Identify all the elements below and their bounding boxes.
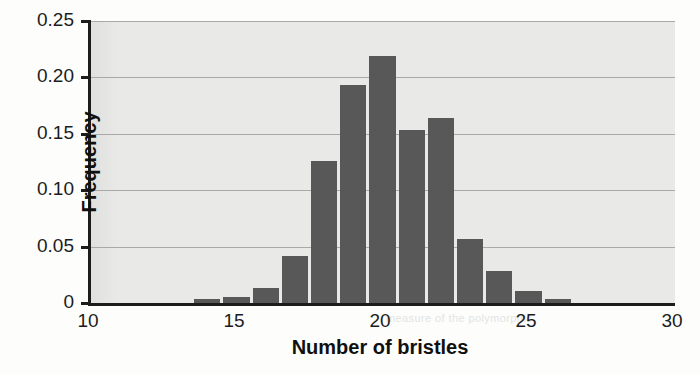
- y-axis-tick: [81, 246, 91, 249]
- y-axis-tick: [81, 20, 91, 23]
- bar: [369, 56, 395, 303]
- y-axis-tick: [81, 302, 91, 305]
- bar: [282, 256, 308, 303]
- bar: [428, 118, 454, 303]
- bar: [486, 271, 512, 303]
- bar: [194, 299, 220, 304]
- y-axis-tick-label: 0.05: [37, 235, 74, 257]
- bar: [545, 299, 571, 304]
- bar: [223, 297, 249, 303]
- x-axis-tick-label: 20: [340, 310, 420, 332]
- bar: [399, 130, 425, 303]
- plot-area: Frequency: [88, 21, 675, 306]
- bar: [311, 161, 337, 303]
- y-axis-tick-label: 0.25: [37, 9, 74, 31]
- y-axis-tick-label: 0.20: [37, 65, 74, 87]
- bar: [253, 288, 279, 303]
- y-axis-tick-label: 0.10: [37, 178, 74, 200]
- bar: [340, 85, 366, 303]
- gridline: [91, 21, 675, 22]
- x-axis-tick-label: 10: [48, 310, 128, 332]
- bar: [515, 291, 541, 303]
- bar: [457, 239, 483, 303]
- histogram-figure: Great comprehension for 2015 understandi…: [0, 0, 700, 375]
- x-axis-tick-label: 30: [632, 310, 700, 332]
- y-axis-tick-label: 0.15: [37, 122, 74, 144]
- x-axis-title: Number of bristles: [88, 336, 672, 359]
- x-axis-tick-label: 25: [486, 310, 566, 332]
- y-axis-tick: [81, 76, 91, 79]
- x-axis-tick-label: 15: [194, 310, 274, 332]
- y-axis-title: Frequency: [78, 111, 101, 212]
